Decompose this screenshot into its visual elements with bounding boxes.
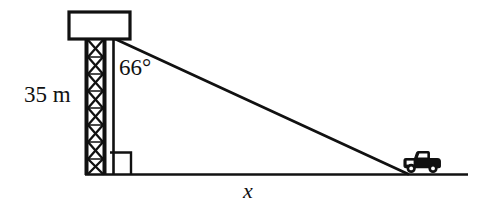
car-rear-hub [409, 167, 413, 171]
car-window-cutout [418, 154, 428, 158]
height-label: 35 m [24, 83, 71, 106]
tower-top-cabin [69, 12, 130, 39]
base-length-label: x [243, 180, 253, 202]
diagram-canvas [0, 0, 479, 208]
car-icon [404, 152, 440, 173]
lattice-tower-mast [85, 38, 107, 175]
angle-label: 66° [119, 56, 151, 79]
trig-diagram-figure: 35 m 66° x [0, 0, 479, 208]
car-front-hub [431, 167, 435, 171]
line-of-sight-hypotenuse [113, 38, 408, 174]
